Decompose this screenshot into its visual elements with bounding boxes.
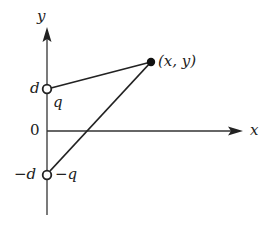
line-minus-q-to-point <box>50 62 151 171</box>
field-point-label: (x, y) <box>158 54 196 69</box>
charge-q-label: q <box>53 95 63 110</box>
charge-minus-q-label: −q <box>55 167 77 182</box>
field-point-marker <box>147 58 155 66</box>
origin-label: 0 <box>30 123 40 138</box>
charge-minus-q-marker <box>43 171 52 180</box>
charge-q-marker <box>43 85 52 94</box>
y-axis-label: y <box>37 9 45 24</box>
charge-q-position-label: d <box>30 81 40 96</box>
x-axis-label: x <box>250 123 258 138</box>
line-q-to-point <box>51 62 151 88</box>
charge-minus-q-position-label: −d <box>14 167 36 182</box>
charge-diagram <box>0 0 274 227</box>
